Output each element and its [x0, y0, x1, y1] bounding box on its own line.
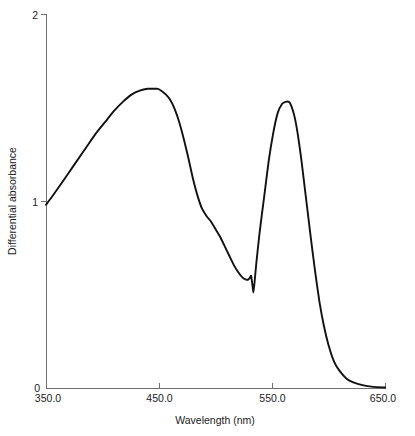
y-tick-label-2: 2: [32, 9, 38, 21]
x-axis-title: Wavelength (nm): [175, 414, 255, 426]
x-tick-label-450: 450.0: [146, 392, 172, 404]
x-tick-label-650: 650.0: [370, 392, 396, 404]
y-tick-label-1: 1: [32, 196, 38, 208]
x-tick-label-550: 550.0: [259, 392, 285, 404]
y-axis-title: Differential absorbance: [6, 147, 18, 255]
spectrum-curve: [46, 89, 385, 388]
chart-figure: 2 1 0 350.0 450.0 550.0 650.0 Wavelength…: [0, 0, 415, 436]
differential-absorbance-chart: 2 1 0 350.0 450.0 550.0 650.0 Wavelength…: [0, 0, 415, 436]
x-tick-label-350: 350.0: [35, 392, 61, 404]
